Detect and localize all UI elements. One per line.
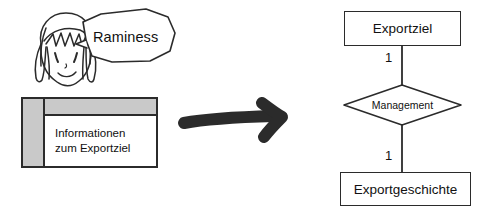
er-entity-exportziel[interactable]: Exportziel xyxy=(344,11,461,46)
table-cell-line-2: zum Exportziel xyxy=(55,141,156,156)
cardinality-top: 1 xyxy=(385,50,392,65)
cardinality-bottom: 1 xyxy=(385,148,392,163)
er-relationship-label: Management xyxy=(344,96,461,114)
source-table[interactable]: Informationen zum Exportziel xyxy=(21,97,158,168)
speech-bubble-text: Raminess xyxy=(93,30,158,45)
manga-face-icon xyxy=(35,13,96,86)
table-side-column xyxy=(23,116,45,166)
table-corner-cell xyxy=(23,99,45,116)
right-arrow-icon xyxy=(184,103,282,137)
table-cell-line-1: Informationen xyxy=(55,126,156,141)
table-content-cell: Informationen zum Exportziel xyxy=(45,116,156,166)
diagram-canvas: Raminess Informationen zum Exportziel Ex… xyxy=(0,0,487,217)
er-entity-exportgeschichte[interactable]: Exportgeschichte xyxy=(340,172,471,206)
